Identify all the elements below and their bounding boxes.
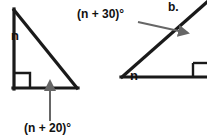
right-triangle-left <box>13 9 78 89</box>
angle-label-n-right: n <box>130 69 138 82</box>
right-angle-marker-left <box>14 73 30 88</box>
angle-label-n-plus-30: (n + 30)° <box>77 8 124 20</box>
geometry-figure: n (n + 20)° (n + 30)° n b. <box>0 0 207 139</box>
triangle-left-hypotenuse <box>14 10 77 88</box>
angle-label-n-left: n <box>11 29 19 42</box>
angle-label-n-plus-20: (n + 20)° <box>24 122 71 134</box>
part-label-b: b. <box>168 1 179 13</box>
triangle-right-diagonal <box>122 2 207 77</box>
right-triangle-right <box>121 2 207 77</box>
